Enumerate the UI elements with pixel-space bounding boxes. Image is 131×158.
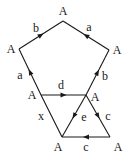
graph-diagram: baabdxecc AAAAAAA	[0, 0, 131, 158]
edge-label: d	[58, 78, 64, 92]
edge-label: a	[17, 68, 23, 82]
edge-label: x	[38, 109, 44, 123]
vertex-label: A	[113, 43, 122, 57]
edge-x-left	[41, 95, 62, 137]
vertex-label: A	[114, 140, 123, 154]
edge-label: a	[86, 20, 92, 34]
vertex-label: A	[28, 88, 37, 102]
edge-label: b	[102, 69, 108, 83]
arrowhead-icon	[83, 135, 89, 140]
vertex-label: A	[59, 4, 68, 18]
arrowhead-icon	[94, 112, 101, 120]
edge-label: c	[83, 140, 88, 154]
vertex-label: A	[54, 140, 63, 154]
edge-label: c	[105, 109, 110, 123]
arrowhead-icon	[27, 68, 34, 75]
edge-label: e	[81, 110, 86, 124]
edge-label: b	[33, 21, 39, 35]
edges-layer	[19, 21, 110, 137]
vertex-label: A	[91, 90, 100, 104]
arrowhead-icon	[70, 112, 77, 120]
vertex-label: A	[7, 42, 16, 56]
arrowhead-icon	[61, 93, 67, 98]
arrowhead-icon	[94, 69, 101, 77]
